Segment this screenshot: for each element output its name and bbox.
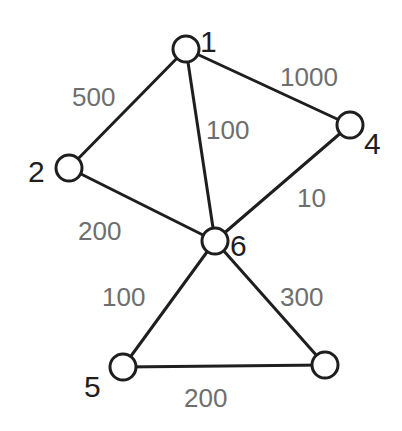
node-label: 2 bbox=[28, 155, 45, 188]
edge-weight-label: 200 bbox=[184, 383, 227, 413]
node-4 bbox=[337, 112, 363, 138]
graph-diagram: 50010010001020010030020012465 bbox=[0, 0, 402, 431]
edge-weight-label: 100 bbox=[206, 115, 249, 145]
node-label: 4 bbox=[364, 127, 381, 160]
edge-weight-label: 300 bbox=[280, 282, 323, 312]
node-1 bbox=[173, 36, 199, 62]
node-label: 1 bbox=[200, 25, 217, 58]
node-unlabeled bbox=[312, 352, 338, 378]
node-5 bbox=[110, 354, 136, 380]
edge-weight-label: 1000 bbox=[280, 62, 338, 92]
edge-n5-n7 bbox=[123, 365, 325, 367]
node-6 bbox=[202, 228, 228, 254]
edge-weight-label: 200 bbox=[78, 216, 121, 246]
edge-weight-label: 10 bbox=[297, 183, 326, 213]
node-label: 5 bbox=[84, 370, 101, 403]
edge-n1-n6 bbox=[186, 49, 215, 241]
node-label: 6 bbox=[230, 229, 247, 262]
edge-weight-label: 100 bbox=[102, 282, 145, 312]
node-2 bbox=[56, 155, 82, 181]
edge-weight-label: 500 bbox=[72, 82, 115, 112]
